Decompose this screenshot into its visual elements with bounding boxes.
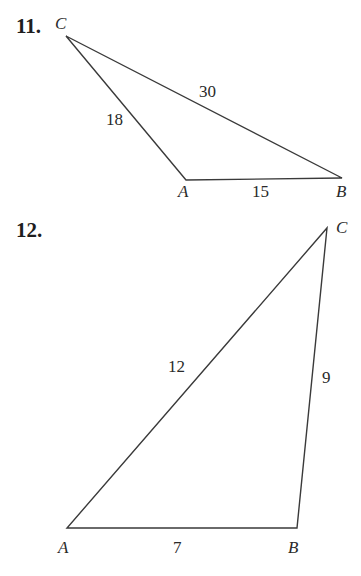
problem-12-vertex-c: C xyxy=(336,218,347,238)
triangle-11 xyxy=(66,36,342,180)
problem-11-vertex-c: C xyxy=(55,14,66,34)
problem-12-side-ac: 12 xyxy=(168,357,185,377)
problem-11-number: 11. xyxy=(16,14,41,39)
problem-11-side-cb: 30 xyxy=(199,82,216,102)
problem-11-side-ab: 15 xyxy=(252,182,269,202)
triangle-12 xyxy=(67,228,327,528)
problem-11-side-ca: 18 xyxy=(106,110,123,130)
problem-11-vertex-b: B xyxy=(336,182,346,202)
problem-11-vertex-a: A xyxy=(178,182,188,202)
problem-12-side-ab: 7 xyxy=(173,538,182,558)
problem-12-side-bc: 9 xyxy=(322,368,331,388)
problem-12-number: 12. xyxy=(16,218,42,243)
problem-12-vertex-a: A xyxy=(58,538,68,558)
problem-12-vertex-b: B xyxy=(288,538,298,558)
triangle-diagrams xyxy=(0,0,361,576)
